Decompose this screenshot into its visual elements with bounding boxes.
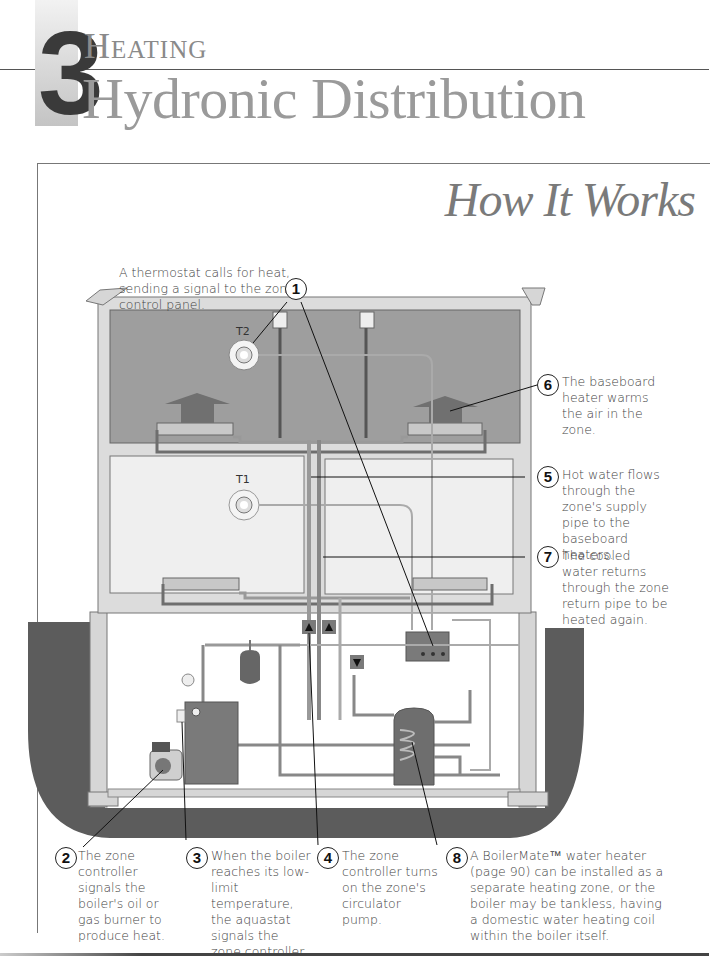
callout-4-number: 4	[317, 847, 339, 869]
callout-8-number: 8	[446, 847, 468, 869]
callout-6-number: 6	[537, 374, 559, 396]
thermostat-t1-icon	[229, 490, 259, 520]
thermostat-t2-label: T2	[235, 325, 250, 338]
boiler	[185, 702, 238, 784]
lower-zone-right	[325, 459, 513, 594]
callout-7-number: 7	[537, 546, 559, 568]
aquastat	[177, 710, 185, 722]
callout-6-text: The baseboard heater warms the air in th…	[562, 374, 662, 438]
callout-3-text: When the boiler reaches its low-limit te…	[211, 848, 311, 960]
callout-2-number: 2	[55, 847, 77, 869]
callout-1-number: 1	[285, 278, 307, 300]
callout-4-text: The zone controller turns on the zone's …	[342, 848, 442, 928]
baseboard-heater-lower-right	[413, 578, 487, 590]
zone-control-panel	[406, 632, 449, 661]
callout-5-number: 5	[537, 466, 559, 488]
callout-2-text: The zone controller signals the boiler's…	[78, 848, 183, 944]
expansion-tank	[240, 650, 260, 684]
footer-rule	[0, 953, 709, 956]
baseboard-heater-lower-left	[163, 578, 239, 590]
callout-1-text: A thermostat calls for heat, sending a s…	[119, 265, 309, 313]
lower-zone-left	[110, 456, 304, 593]
boilermate-water-heater	[394, 708, 434, 785]
callout-3-number: 3	[186, 847, 208, 869]
callout-8-text: A BoilerMate™ water heater (page 90) can…	[470, 848, 665, 944]
thermostat-t2-icon	[229, 340, 259, 370]
callout-7-text: The cooled water returns through the zon…	[562, 548, 670, 628]
thermostat-t1-label: T1	[235, 473, 250, 486]
